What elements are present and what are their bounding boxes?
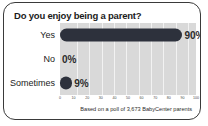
chart-card: Do you enjoy being a parent? Yes 90% No …: [3, 2, 201, 120]
x-tick-label: 30: [99, 96, 103, 100]
bar-sometimes: [60, 77, 72, 90]
bar-yes: [60, 29, 182, 42]
bar-row: Sometimes 9%: [60, 71, 196, 95]
plot-wrapper: Yes 90% No 0% Sometimes 9%: [60, 23, 196, 95]
x-tick-label: 90: [180, 96, 184, 100]
category-label-yes: Yes: [40, 30, 55, 40]
x-tick-label: 100: [193, 96, 199, 100]
x-tick-label: 80: [167, 96, 171, 100]
x-tick-label: 40: [112, 96, 116, 100]
x-tick-label: 10: [72, 96, 76, 100]
x-tick-label: 50: [126, 96, 130, 100]
x-tick-label: 70: [153, 96, 157, 100]
bar-row: Yes 90%: [60, 23, 196, 47]
value-label-no: 0%: [62, 54, 76, 65]
bar-row: No 0%: [60, 47, 196, 71]
chart-footnote: Based on a poll of 3,673 BabyCenter pare…: [4, 106, 192, 112]
x-tick-label: 20: [85, 96, 89, 100]
category-label-no: No: [43, 54, 55, 64]
value-label-yes: 90%: [184, 30, 201, 41]
x-axis: 0102030405060708090100: [60, 96, 196, 104]
value-label-sometimes: 9%: [74, 78, 88, 89]
category-label-sometimes: Sometimes: [10, 78, 55, 88]
chart-title: Do you enjoy being a parent?: [14, 10, 141, 21]
x-tick-label: 0: [59, 96, 61, 100]
x-tick-label: 60: [140, 96, 144, 100]
